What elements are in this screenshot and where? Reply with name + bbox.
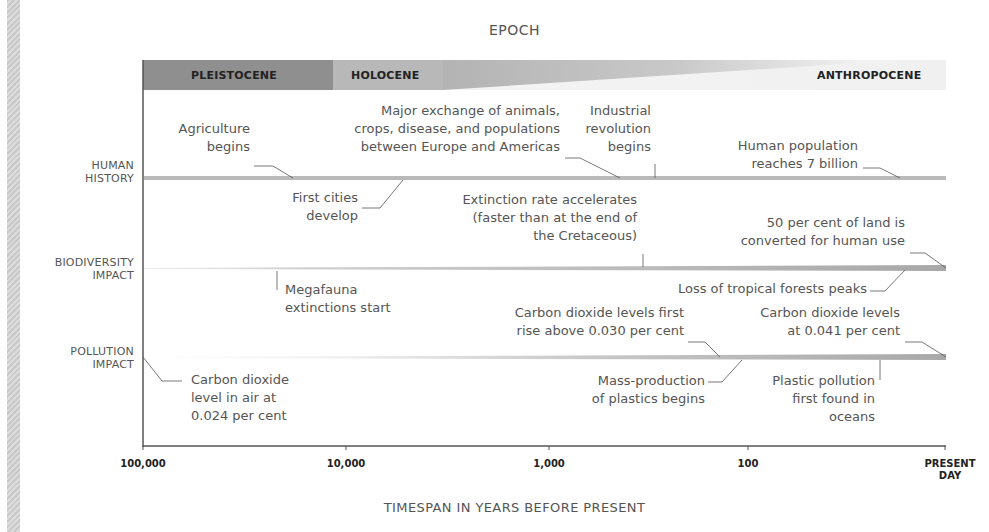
event-extinction-accelerates: Extinction rate accelerates (faster than…	[420, 191, 637, 245]
row-label-human-history: HUMAN HISTORY	[85, 159, 134, 185]
tick-1000: 1,000	[519, 458, 579, 470]
event-megafauna-extinctions: Megafauna extinctions start	[285, 281, 391, 317]
event-first-cities: First cities develop	[270, 189, 358, 225]
event-land-converted: 50 per cent of land is converted for hum…	[715, 214, 905, 250]
tick-100: 100	[718, 458, 778, 470]
event-tropical-forest-loss: Loss of tropical forests peaks	[640, 280, 867, 298]
event-population-7-billion: Human population reaches 7 billion	[720, 137, 858, 173]
row-label-line: HISTORY	[85, 172, 134, 185]
tick-10000: 10,000	[316, 458, 376, 470]
event-co2-0024: Carbon dioxide level in air at 0.024 per…	[191, 371, 289, 425]
row-label-pollution-impact: POLLUTION IMPACT	[70, 345, 134, 371]
row-label-line: IMPACT	[55, 269, 134, 282]
event-plastic-in-oceans: Plastic pollution first found in oceans	[730, 372, 875, 426]
x-axis-title: TIMESPAN IN YEARS BEFORE PRESENT	[60, 500, 969, 515]
event-plastics-mass-production: Mass-production of plastics begins	[540, 372, 705, 408]
row-label-line: HUMAN	[85, 159, 134, 172]
row-label-biodiversity-impact: BIODIVERSITY IMPACT	[55, 256, 134, 282]
tick-present-day: PRESENT DAY	[920, 458, 980, 482]
row-label-line: IMPACT	[70, 358, 134, 371]
event-major-exchange: Major exchange of animals, crops, diseas…	[330, 102, 560, 156]
row-label-line: BIODIVERSITY	[55, 256, 134, 269]
event-co2-0041: Carbon dioxide levels at 0.041 per cent	[720, 304, 900, 340]
event-industrial-revolution: Industrial revolution begins	[580, 102, 651, 156]
row-label-line: POLLUTION	[70, 345, 134, 358]
timeline-graphics	[0, 0, 989, 532]
tick-100000: 100,000	[113, 458, 173, 470]
event-co2-0030: Carbon dioxide levels first rise above 0…	[455, 304, 684, 340]
event-agriculture-begins: Agriculture begins	[160, 120, 250, 156]
